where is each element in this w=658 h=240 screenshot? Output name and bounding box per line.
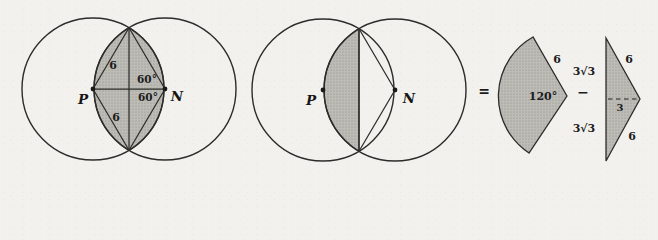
label-angle-top: 60° (137, 73, 157, 85)
equals-sign: = (478, 83, 490, 99)
triangle-height-label: 3 (617, 102, 624, 113)
geometry-diagram: P N 6 6 60° 60° P N = 120° 6 3√3 − 3√3 (0, 0, 658, 174)
triangle-side-top-label: 6 (625, 53, 633, 66)
figure-overlapping-circles-lens: P N 6 6 60° 60° (22, 18, 236, 160)
sector-radius-label: 6 (553, 53, 561, 66)
segment-shaded-region (324, 29, 359, 151)
label-point-n: N (402, 90, 416, 106)
point-n-dot (393, 88, 398, 93)
label-point-p: P (77, 91, 89, 107)
label-radius-bottom: 6 (112, 111, 120, 124)
triangle-half-top-label: 3√3 (573, 65, 596, 78)
point-n-dot (163, 87, 168, 92)
chord-n-top (359, 29, 395, 90)
sector-angle-label: 120° (529, 90, 557, 103)
minus-sign: − (577, 84, 589, 100)
point-p-dot (91, 87, 96, 92)
triangle-half-bottom-label: 3√3 (573, 122, 596, 135)
triangle-side-bottom-label: 6 (628, 130, 636, 143)
point-p-dot (321, 88, 326, 93)
equation-group: = 120° 6 3√3 − 3√3 3 6 6 (478, 37, 640, 161)
figure-half-lens-shaded: P N (252, 19, 466, 161)
chord-n-bottom (359, 90, 395, 151)
label-angle-bottom: 60° (138, 91, 158, 103)
label-point-p: P (305, 92, 317, 108)
label-point-n: N (170, 88, 184, 104)
label-radius-top: 6 (109, 59, 117, 72)
